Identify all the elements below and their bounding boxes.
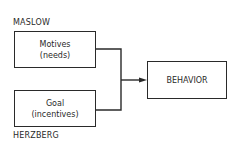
arrowhead-icon (139, 78, 147, 83)
connector-lines (0, 0, 244, 147)
motives-connector (96, 49, 121, 110)
